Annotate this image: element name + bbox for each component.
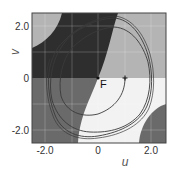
y-tick-label: 0: [23, 73, 29, 84]
x-axis-label: u: [122, 155, 129, 169]
x-tick-label: 0: [95, 145, 101, 156]
x-tick-label: 2.0: [144, 145, 158, 156]
y-axis-label: v: [8, 48, 22, 55]
plot-area: F: [32, 13, 166, 143]
annotation-F: F: [100, 78, 107, 90]
x-tick-label: -2.0: [36, 145, 54, 156]
y-tick-label: -2.0: [12, 125, 30, 136]
phase-portrait-chart: F 2.0 0 -2.0 -2.0 0 2.0 u v: [0, 0, 176, 172]
y-tick-label: 2.0: [15, 21, 29, 32]
